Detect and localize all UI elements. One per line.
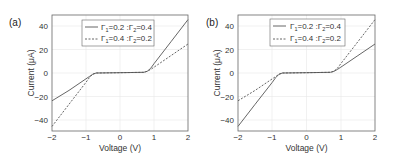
svg-text:0: 0 <box>44 69 49 78</box>
figure: (a) 40 20 0 −20 −40 −2 −1 0 1 2 Voltage … <box>0 0 396 157</box>
svg-text:2: 2 <box>186 133 191 142</box>
svg-text:2: 2 <box>373 133 378 142</box>
x-ticks-a: −2 −1 0 1 2 <box>47 133 190 142</box>
legend-a: Γ1=0.2 :Γ2=0.4 Γ1=0.4 :Γ2=0.2 <box>82 20 154 46</box>
y-ticks-b: 40 20 0 −20 −40 <box>220 22 234 125</box>
svg-text:−40: −40 <box>220 116 234 125</box>
svg-text:40: 40 <box>225 22 234 31</box>
svg-text:20: 20 <box>39 46 48 55</box>
x-ticks-b: −2 −1 0 1 2 <box>233 133 377 142</box>
svg-text:0: 0 <box>118 133 123 142</box>
y-axis-label-b: Current (μA) <box>212 49 222 96</box>
svg-text:0: 0 <box>304 133 309 142</box>
x-axis-label-b: Voltage (V) <box>285 143 327 153</box>
legend-entry-1: Γ1=0.2 :Γ2=0.4 <box>290 22 342 32</box>
svg-text:1: 1 <box>339 133 344 142</box>
y-ticks-a: 40 20 0 −20 −40 <box>34 22 48 125</box>
svg-text:−2: −2 <box>233 133 243 142</box>
panel-b: (b) 40 20 0 −20 −40 −2 −1 0 1 2 Voltage … <box>206 15 378 153</box>
y-axis-label-a: Current (μA) <box>26 49 36 96</box>
svg-text:1: 1 <box>152 133 157 142</box>
svg-text:−20: −20 <box>34 93 48 102</box>
legend-entry-1: Γ1=0.2 :Γ2=0.4 <box>101 23 153 33</box>
svg-text:40: 40 <box>39 22 48 31</box>
svg-text:−1: −1 <box>267 133 277 142</box>
svg-text:20: 20 <box>225 46 234 55</box>
svg-text:−1: −1 <box>81 133 91 142</box>
legend-entry-2: Γ1=0.4 :Γ2=0.2 <box>290 34 342 44</box>
panel-label-a: (a) <box>9 17 21 28</box>
legend-entry-2: Γ1=0.4 :Γ2=0.2 <box>101 34 153 44</box>
panel-a: (a) 40 20 0 −20 −40 −2 −1 0 1 2 Voltage … <box>9 15 191 153</box>
legend-b: Γ1=0.2 :Γ2=0.4 Γ1=0.4 :Γ2=0.2 <box>270 19 345 46</box>
svg-text:−40: −40 <box>34 116 48 125</box>
svg-text:−2: −2 <box>47 133 57 142</box>
panel-label-b: (b) <box>206 17 218 28</box>
x-axis-label-a: Voltage (V) <box>99 143 141 153</box>
svg-text:−20: −20 <box>220 93 234 102</box>
svg-text:0: 0 <box>230 69 235 78</box>
